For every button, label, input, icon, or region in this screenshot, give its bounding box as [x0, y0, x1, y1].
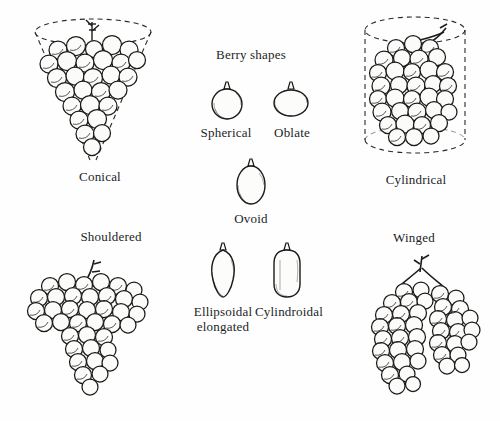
cluster-label-winged: Winged: [393, 231, 435, 246]
berry-cylindroidal-illustration: [262, 240, 314, 302]
berry-ellipsoidal-elongated-illustration: [200, 240, 248, 302]
berry-label-oblate: Oblate: [274, 126, 310, 141]
berry-ovoid-illustration: [228, 156, 276, 212]
cylindrical-cluster-illustration: [348, 8, 488, 173]
cluster-label-conical: Conical: [79, 170, 121, 185]
berry-shapes-title: Berry shapes: [216, 48, 286, 63]
conical-cluster-illustration: [18, 8, 168, 173]
winged-berries-left-lobe: [372, 282, 434, 394]
cluster-label-cylindrical: Cylindrical: [386, 173, 447, 188]
berry-label-cylindroidal: Cylindroidal: [255, 305, 323, 320]
shouldered-berries: [28, 274, 149, 396]
berry-label-ellipsoidal-elongated: Ellipsoidal elongated: [194, 305, 253, 335]
berry-label-spherical: Spherical: [201, 126, 252, 141]
berry-spherical-illustration: [203, 78, 251, 126]
conical-berries: [40, 36, 146, 156]
shouldered-cluster-illustration: [14, 252, 174, 412]
berry-oblate-illustration: [265, 78, 317, 126]
berry-label-ovoid: Ovoid: [234, 212, 268, 227]
winged-berries-right-lobe: [430, 286, 481, 375]
winged-cluster-illustration: [352, 250, 497, 415]
cluster-label-shouldered: Shouldered: [80, 230, 141, 245]
grape-shape-figure: Conical: [0, 0, 500, 421]
